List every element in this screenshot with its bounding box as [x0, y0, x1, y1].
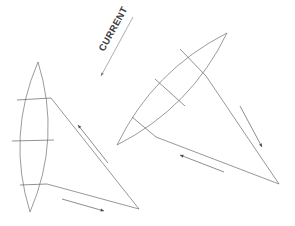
left-batten-3 [20, 184, 47, 185]
right-side-arrow [240, 106, 262, 147]
left-upper-arrow [78, 125, 108, 163]
right-frame-upper-edge [206, 76, 279, 184]
left-lower-arrow-shaft [62, 199, 104, 211]
left-frame-lower-edge [47, 184, 139, 209]
right-lower-arrow [180, 155, 224, 172]
right-sail [117, 33, 227, 145]
diagram-svg: CURRENT [0, 0, 295, 226]
right-batten-3 [132, 117, 156, 137]
left-lower-arrow [62, 199, 104, 212]
right-assembly [117, 33, 279, 184]
left-frame-upper-edge [51, 98, 139, 209]
right-lower-arrow-head [180, 155, 184, 158]
right-batten-2 [155, 79, 185, 106]
left-upper-arrow-shaft [78, 125, 108, 163]
right-batten-1 [180, 49, 206, 76]
current-arrow-group: CURRENT [96, 5, 133, 76]
right-lower-arrow-shaft [180, 155, 224, 172]
left-sail [20, 62, 48, 212]
current-label: CURRENT [96, 5, 129, 53]
left-assembly [12, 62, 139, 212]
assemblies-layer [12, 33, 279, 212]
diagram-canvas: CURRENT [0, 0, 295, 226]
right-side-arrow-shaft [240, 106, 262, 147]
